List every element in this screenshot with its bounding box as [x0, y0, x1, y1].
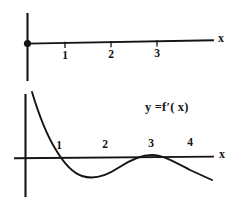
- bottom-tick-label-3: 3: [144, 138, 158, 150]
- bottom-tick-label-4: 4: [183, 137, 197, 149]
- calculus-figure: 1 2 3 x 1 2 3 4 x y =f′( x): [0, 0, 249, 202]
- panel-derivative-graph: 1 2 3 4 x y =f′( x): [0, 0, 249, 202]
- bottom-tick-label-2: 2: [98, 139, 112, 151]
- bottom-tick-label-1: 1: [52, 140, 66, 152]
- bottom-x-axis-label: x: [219, 148, 225, 160]
- bottom-x-axis: [15, 157, 213, 159]
- derivative-equation-label: y =f′( x): [145, 101, 189, 114]
- derivative-graph-svg: [0, 0, 249, 202]
